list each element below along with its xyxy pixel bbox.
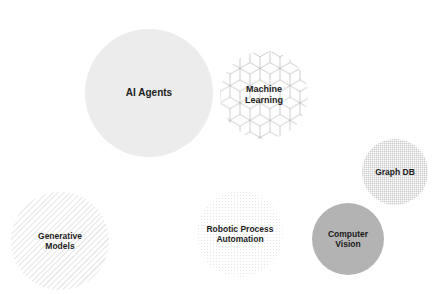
bubble-graph-db: Graph DB [362,139,428,205]
bubble-label: AI Agents [126,87,172,99]
bubble-label: Computer Vision [328,229,368,249]
bubble-label: Graph DB [375,167,415,177]
bubble-label: Robotic Process Automation [206,224,273,244]
bubble-generative-models: Generative Models [11,192,109,290]
bubble-computer-vision: Computer Vision [312,203,384,275]
bubble-ai-agents: AI Agents [85,29,213,157]
bubble-machine-learning: Machine Learning [220,51,308,139]
bubble-label: Generative Models [38,231,82,251]
bubble-robotic-process-automation: Robotic Process Automation [197,191,283,277]
bubble-label: Machine Learning [245,84,283,106]
